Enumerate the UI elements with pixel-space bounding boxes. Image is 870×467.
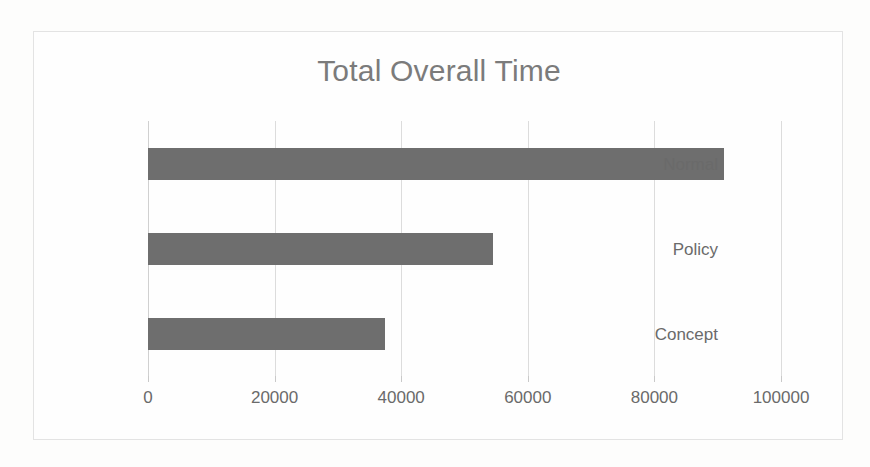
chart-title: Total Overall Time — [34, 54, 844, 88]
x-tick-mark — [528, 376, 529, 382]
x-tick-mark — [275, 376, 276, 382]
x-tick-mark — [781, 376, 782, 382]
category-label-concept: Concept — [655, 326, 718, 343]
x-axis-tick-label: 80000 — [631, 389, 678, 406]
bar-normal — [148, 148, 724, 180]
category-label-policy: Policy — [673, 241, 718, 258]
bar-policy — [148, 233, 493, 265]
x-tick-mark — [148, 376, 149, 382]
category-label-normal: Normal — [663, 156, 718, 173]
x-tick-mark — [654, 376, 655, 382]
x-axis-tick-label: 100000 — [753, 389, 810, 406]
gridline — [781, 121, 782, 376]
x-axis-tick-label: 20000 — [251, 389, 298, 406]
x-axis-tick-label: 40000 — [378, 389, 425, 406]
bar-concept — [148, 318, 385, 350]
chart-container: Total Overall Time 020000400006000080000… — [33, 31, 843, 440]
x-tick-mark — [401, 376, 402, 382]
screenshot-canvas: Total Overall Time 020000400006000080000… — [0, 0, 870, 467]
x-axis-tick-label: 60000 — [504, 389, 551, 406]
x-axis-tick-label: 0 — [143, 389, 152, 406]
